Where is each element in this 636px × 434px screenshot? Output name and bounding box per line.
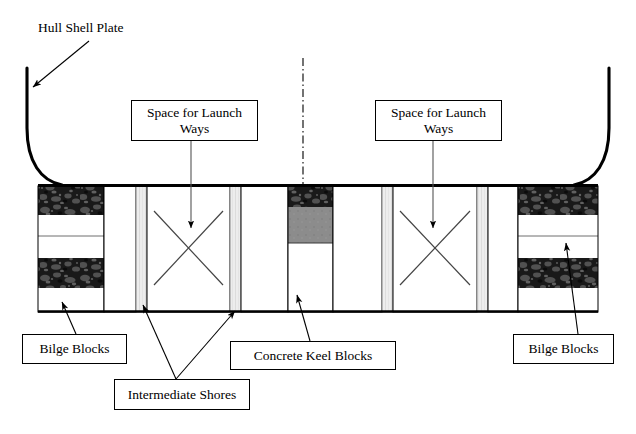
intermediate-shore-right-outer <box>477 186 488 312</box>
concrete-keel-blocks-label: Concrete Keel Blocks <box>230 341 396 370</box>
intermediate-shore-right-inner <box>382 186 393 312</box>
diagram-canvas: Hull Shell Plate Space for Launch Ways S… <box>0 0 636 434</box>
open-bay-left-outer <box>104 186 136 312</box>
launch-ways-bay-right <box>393 186 477 312</box>
bilge-blocks-right-label: Bilge Blocks <box>513 334 614 364</box>
bilge-block-left <box>38 186 104 312</box>
bilge-block-right <box>518 186 598 312</box>
leader-intermediate-shores-left <box>143 305 176 379</box>
intermediate-shore-left-inner <box>230 186 241 312</box>
space-for-launch-ways-left-label: Space for Launch Ways <box>131 100 258 141</box>
hull-shell-plate-outline <box>27 68 609 185</box>
hull-shell-plate-label: Hull Shell Plate <box>38 20 142 38</box>
open-bay-right-of-keel <box>333 186 382 312</box>
blocking-arrangement-region <box>38 185 598 312</box>
open-bay-left-of-keel <box>241 186 288 312</box>
intermediate-shore-left-outer <box>136 186 147 312</box>
open-bay-right-outer <box>488 186 518 312</box>
intermediate-shores-label: Intermediate Shores <box>114 379 250 410</box>
leader-intermediate-shores-right <box>176 311 235 379</box>
launch-ways-bay-left <box>147 186 230 312</box>
space-for-launch-ways-right-label: Space for Launch Ways <box>375 100 502 141</box>
bilge-blocks-left-label: Bilge Blocks <box>22 334 127 364</box>
concrete-keel-block <box>288 186 333 312</box>
leader-hull-shell-plate <box>33 41 89 87</box>
